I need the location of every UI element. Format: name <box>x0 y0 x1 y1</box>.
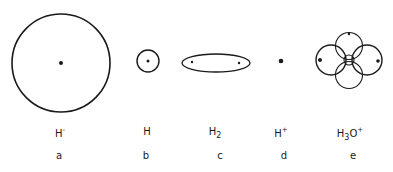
label-h: H <box>127 126 167 137</box>
subscript-text: 2 <box>216 131 221 140</box>
letter-c: c <box>200 150 240 161</box>
h3o-plus-orbitals <box>316 33 382 89</box>
charge-text: - <box>63 126 66 134</box>
charge-text: + <box>282 126 288 134</box>
formula-text: H <box>274 128 282 139</box>
orbital-diagram <box>0 0 393 172</box>
formula-text: H <box>55 128 63 139</box>
letter-b: b <box>126 150 166 161</box>
letter-e: e <box>333 150 373 161</box>
label-h3o-plus: H3O+ <box>330 126 370 142</box>
h-atom-orbital <box>137 50 159 72</box>
formula-text: H <box>143 126 151 137</box>
letter-a: a <box>39 150 79 161</box>
h-minus-orbital <box>12 14 110 112</box>
letter-d: d <box>264 150 304 161</box>
label-h2: H2 <box>195 126 235 140</box>
label-h-minus: H- <box>40 126 80 139</box>
h2-orbital <box>182 54 250 72</box>
label-h-plus: H+ <box>261 126 301 139</box>
charge-text: + <box>357 126 363 134</box>
h-plus-nucleus <box>279 59 284 64</box>
